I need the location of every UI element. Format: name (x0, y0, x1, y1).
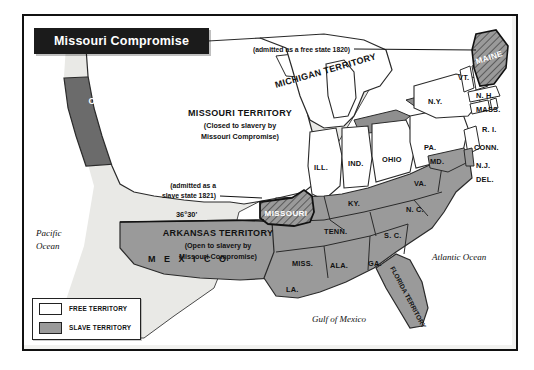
callout-missouri-line-1: (admitted as a (170, 182, 216, 190)
label-oregon-country: OREGON COUNTRY (89, 96, 176, 106)
label-oregon-note-2: British and the (107, 120, 156, 127)
label-state-ind: IND. (348, 159, 364, 168)
callout-maine: (admitted as a free state 1820) (253, 46, 350, 54)
legend-swatch-free (39, 303, 62, 315)
label-state-ri: R. I. (482, 125, 497, 134)
map-legend: FREE TERRITORY SLAVE TERRITORY (32, 298, 141, 340)
callout-missouri-line-2: slave state 1821) (162, 192, 216, 200)
label-state-md: MD. (430, 157, 444, 166)
label-atlantic-ocean: Atlantic Ocean (431, 252, 487, 262)
label-state-pa: PA. (424, 143, 436, 152)
label-gulf-of-mexico: Gulf of Mexico (312, 314, 366, 324)
label-pacific-ocean-line-1: Pacific (35, 228, 62, 238)
label-state-nc: N. C. (406, 205, 424, 214)
label-state-ala: ALA. (330, 261, 348, 270)
legend-row-free: FREE TERRITORY (33, 299, 140, 318)
map-canvas: OREGON COUNTRY (Jointly Claimed by Briti… (24, 16, 512, 345)
map-title-banner: Missouri Compromise (34, 28, 209, 54)
label-state-vt: VT. (458, 73, 469, 82)
label-state-nh: N. H. (476, 91, 494, 100)
label-state-va: VA. (414, 179, 426, 188)
legend-swatch-slave (39, 322, 62, 334)
label-state-ky: KY. (348, 199, 360, 208)
label-state-la: LA. (286, 285, 299, 294)
state-delaware (464, 148, 474, 166)
label-missouri-state: MISSOURI (265, 209, 308, 218)
legend-label-slave: SLAVE TERRITORY (69, 324, 131, 331)
label-state-nj: N.J. (476, 161, 490, 170)
label-state-mass: MASS. (476, 105, 500, 114)
state-indiana (342, 126, 372, 188)
label-missouri-territory: MISSOURI TERRITORY (188, 108, 292, 118)
map-title: Missouri Compromise (54, 34, 189, 48)
label-state-sc: S. C. (384, 231, 401, 240)
label-pacific-ocean-line-2: Ocean (36, 241, 60, 251)
label-state-conn: CONN. (474, 143, 499, 152)
label-state-tenn: TENN. (324, 227, 347, 236)
label-missouri-territory-note-1: (Closed to slavery by (204, 121, 276, 130)
label-arkansas-note-1: (Open to slavery by (185, 241, 252, 250)
label-state-ga: GA. (368, 259, 382, 268)
label-state-ny: N.Y. (428, 97, 442, 106)
missouri-compromise-map-figure: OREGON COUNTRY (Jointly Claimed by Briti… (0, 0, 534, 370)
label-state-ohio: OHIO (382, 155, 402, 164)
label-mexico: M E X I C O (148, 254, 229, 264)
legend-row-slave: SLAVE TERRITORY (33, 318, 140, 337)
label-state-del: DEL. (476, 175, 494, 184)
label-parallel-36-30: 36°30' (176, 210, 197, 219)
label-state-miss: MISS. (292, 259, 313, 268)
label-oregon-note-1: (Jointly Claimed by (100, 109, 164, 117)
legend-label-free: FREE TERRITORY (69, 305, 127, 312)
label-oregon-note-3: United States) (108, 131, 155, 139)
label-state-ill: ILL. (314, 163, 328, 172)
label-missouri-territory-note-2: Missouri Compromise) (201, 132, 279, 141)
label-arkansas-territory: ARKANSAS TERRITORY (163, 228, 273, 238)
state-ohio (372, 120, 416, 182)
